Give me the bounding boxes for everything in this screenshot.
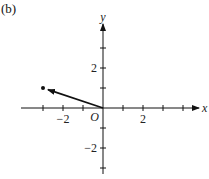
vector-endpoint-dot (41, 86, 45, 90)
y-tick-label: −2 (84, 141, 97, 155)
axis-labels: −222−2Oyx (57, 10, 208, 155)
x-axis-label: x (201, 101, 208, 115)
vector-arrow (48, 90, 103, 108)
origin-label: O (90, 110, 99, 124)
x-tick-label: 2 (140, 112, 146, 126)
y-tick-label: 2 (91, 61, 97, 75)
coordinate-plane: −222−2Oyx (0, 0, 209, 179)
x-tick-label: −2 (57, 112, 70, 126)
y-axis-label: y (99, 10, 106, 24)
